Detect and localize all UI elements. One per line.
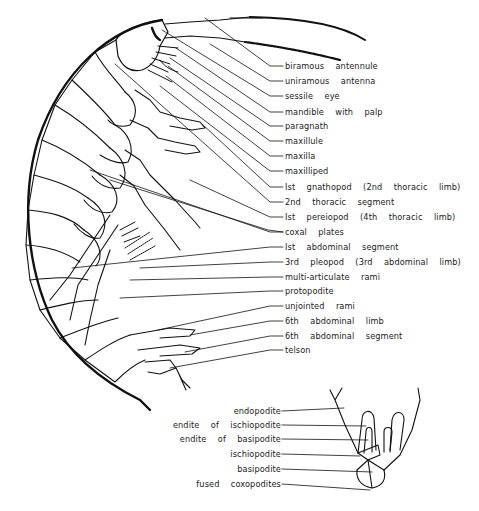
eye <box>152 28 160 40</box>
label-1st-pereiopod: Ist pereiopod (4th thoracic limb) <box>285 212 455 222</box>
label-paragnath: paragnath <box>285 121 328 131</box>
label-ischiopodite: ischiopodite <box>230 449 281 459</box>
label-endite-of-ischiopodite: endite of ischiopodite <box>173 420 281 430</box>
label-sessile-eye: sessile eye <box>285 91 340 101</box>
label-maxilla: maxilla <box>285 151 315 161</box>
uropods-telson <box>130 328 200 390</box>
maxilliped-detail <box>330 388 420 488</box>
segment-lines <box>26 40 145 382</box>
label-2nd-thoracic-segment: 2nd thoracic segment <box>285 197 394 207</box>
label-telson: telson <box>285 345 311 355</box>
label-protopodite: protopodite <box>285 286 334 296</box>
label-mandible-with-palp: mandible with palp <box>285 107 383 117</box>
antennae <box>165 17 365 60</box>
label-fused-coxopodites: fused coxopodites <box>196 479 281 489</box>
label-6th-abdominal-limb: 6th abdominal limb <box>285 316 384 326</box>
amphipod-anatomy-figure: biramous antennule uniramous antenna ses… <box>0 0 479 511</box>
label-1st-abdominal-segment: Ist abdominal segment <box>285 242 399 252</box>
label-biramous-antennule: biramous antennule <box>285 61 378 71</box>
coxal-plates <box>74 92 135 266</box>
head <box>116 20 168 71</box>
label-uniramous-antenna: uniramous antenna <box>285 76 375 86</box>
label-coxal-plates: coxal plates <box>285 227 344 237</box>
label-basipodite: basipodite <box>237 464 281 474</box>
label-maxilliped: maxilliped <box>285 166 328 176</box>
label-6th-abdominal-segment: 6th abdominal segment <box>285 331 402 341</box>
label-endite-of-basipodite: endite of basipodite <box>180 434 281 444</box>
legs <box>50 90 205 345</box>
label-unjointed-rami: unjointed rami <box>285 301 355 311</box>
label-multi-articulate-rami: multi-articulate rami <box>285 272 380 282</box>
leader-lines <box>72 18 283 368</box>
label-maxillule: maxillule <box>285 136 323 146</box>
label-3rd-pleopod: 3rd pleopod (3rd abdominal limb) <box>285 257 461 267</box>
label-1st-gnathopod: Ist gnathopod (2nd thoracic limb) <box>285 182 460 192</box>
label-endopodite: endopodite <box>234 406 281 416</box>
mouthparts <box>148 46 178 82</box>
dorsal-outline <box>28 20 162 410</box>
pleopods <box>120 222 155 260</box>
